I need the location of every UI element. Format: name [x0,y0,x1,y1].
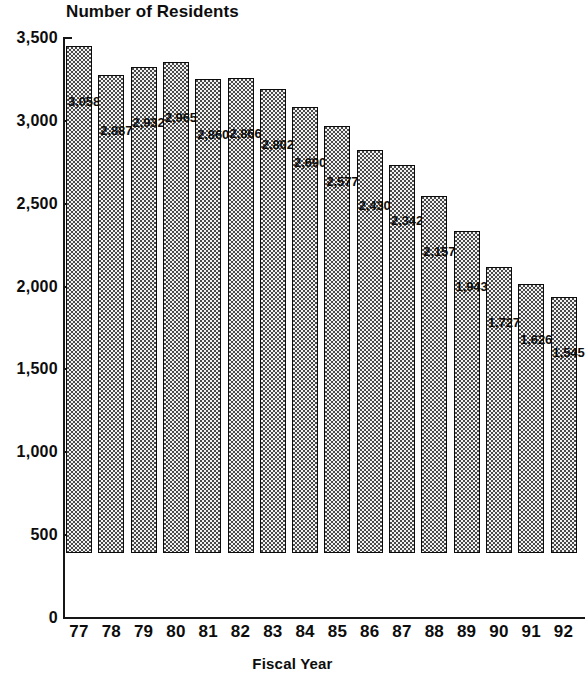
bar-slot [292,0,318,618]
bar-value-label: 2,802 [262,137,294,152]
bar-slot [357,0,383,618]
bar-value-label: 1,727 [488,315,520,330]
bar-value-label: 2,860 [197,127,229,142]
bar-value-label: 2,965 [165,110,197,125]
bar-value-label: 2,577 [326,174,358,189]
bar-slot [421,0,447,618]
bar [195,79,221,553]
bar-slot [551,0,577,618]
bar-value-label: 1,943 [456,279,488,294]
bar-slot [163,0,189,618]
bar-slot [260,0,286,618]
y-axis-tick-label: 2,500 [0,195,58,213]
bar [324,126,350,553]
x-axis-category-label: 92 [544,622,584,642]
y-axis-tick-label: 500 [0,526,58,544]
bar-value-label: 2,932 [133,115,165,130]
bar-value-label: 2,866 [230,126,262,141]
y-axis-tick-label: 1,000 [0,443,58,461]
bar-value-label: 2,157 [423,244,455,259]
bar-value-label: 2,430 [359,198,391,213]
bar [228,78,254,553]
bar-slot [324,0,350,618]
bar [486,267,512,553]
bar [98,75,124,553]
bar-slot [195,0,221,618]
bar [260,89,286,553]
bar-chart: Number of Residents 05001,0001,5002,0002… [0,0,585,683]
y-axis-tick-label-text: 0 [0,609,58,627]
bar-slot [228,0,254,618]
bar [551,297,577,553]
bar-value-label: 2,342 [391,213,423,228]
y-axis-tick-label-text: 1,500 [0,360,58,378]
y-axis-tick-label-text: 2,000 [0,278,58,296]
bar-value-label: 2,887 [100,123,132,138]
bar-slot [98,0,124,618]
y-axis-tick-label: 1,500 [0,360,58,378]
bar-slot [518,0,544,618]
bar [131,67,157,553]
y-axis-tick-label: 0 [0,609,58,627]
x-axis-title: Fiscal Year [0,655,585,672]
y-axis-tick-label-text: 3,500 [0,29,58,47]
bar-value-label: 1,545 [553,345,585,360]
bar-value-label: 1,626 [520,332,552,347]
y-axis-tick-label: 3,000 [0,112,58,130]
y-axis-tick-label-text: 3,000 [0,112,58,130]
bar [66,46,92,553]
bar-value-label: 2,690 [294,155,326,170]
bar [518,284,544,553]
bar-slot [486,0,512,618]
y-axis-line [63,38,65,619]
y-axis-tick-label: 3,500 [0,29,58,47]
y-axis-tick-label-text: 500 [0,526,58,544]
y-axis-tick-label: 2,000 [0,278,58,296]
y-axis-tick-label-text: 2,500 [0,195,58,213]
bar-value-label: 3,058 [68,94,100,109]
bar-slot [66,0,92,618]
bar-slot [389,0,415,618]
y-axis-tick-label-text: 1,000 [0,443,58,461]
bar-slot [131,0,157,618]
bar-slot [454,0,480,618]
bar [292,107,318,553]
bar [163,62,189,553]
